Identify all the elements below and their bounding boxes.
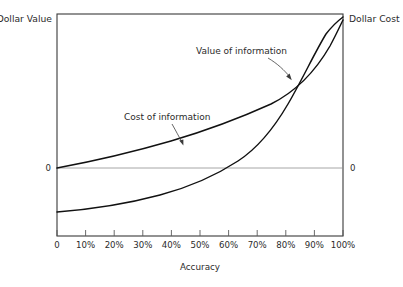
- x-tick-label-60: 60%: [219, 240, 238, 250]
- curve-cost-of-information: [57, 20, 343, 168]
- x-axis-tick-labels: 0 10% 20% 30% 40% 50% 60% 70% 80% 90% 10…: [54, 240, 355, 250]
- left-zero-label: 0: [46, 163, 51, 173]
- chart-figure: Dollar Value Dollar Cost 0 0 Value of in…: [0, 0, 403, 287]
- cost-of-information-label: Cost of information: [124, 112, 210, 122]
- x-tick-label-70: 70%: [248, 240, 267, 250]
- x-axis-ticks: [57, 230, 343, 236]
- x-tick-label-90: 90%: [305, 240, 324, 250]
- x-tick-label-50: 50%: [190, 240, 209, 250]
- x-tick-label-20: 20%: [105, 240, 124, 250]
- x-tick-label-80: 80%: [276, 240, 295, 250]
- x-tick-label-40: 40%: [162, 240, 181, 250]
- x-tick-label-10: 10%: [76, 240, 95, 250]
- chart-canvas: Dollar Value Dollar Cost 0 0 Value of in…: [0, 0, 403, 287]
- x-tick-label-100: 100%: [331, 240, 356, 250]
- right-zero-label: 0: [350, 163, 355, 173]
- x-tick-label-30: 30%: [133, 240, 152, 250]
- x-axis-title: Accuracy: [180, 262, 220, 272]
- x-tick-label-0: 0: [54, 240, 59, 250]
- value-of-information-label: Value of information: [196, 46, 287, 56]
- cost-annotation-leader: [172, 124, 183, 146]
- left-axis-label: Dollar Value: [0, 13, 52, 24]
- value-annotation-leader: [268, 58, 292, 80]
- right-axis-label: Dollar Cost: [349, 13, 400, 24]
